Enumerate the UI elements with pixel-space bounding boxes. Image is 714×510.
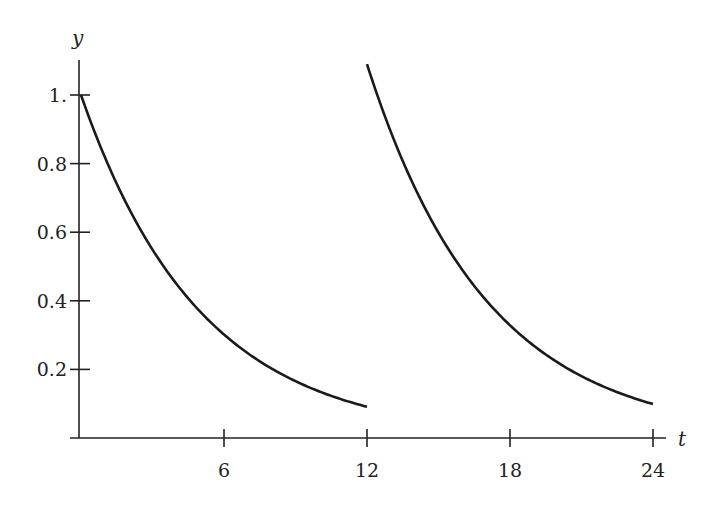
x-tick-label: 24 (641, 459, 665, 481)
x-axis-label: t (678, 427, 687, 451)
y-tick-label: 0.2 (37, 358, 67, 380)
curves (81, 64, 653, 407)
y-tick-label: 0.4 (37, 290, 67, 312)
ticks: 61218240.20.40.60.81. (37, 84, 665, 481)
x-tick-label: 6 (218, 459, 230, 481)
y-tick-label: 0.6 (37, 221, 67, 243)
curve-segment-2 (367, 64, 653, 404)
chart: 61218240.20.40.60.81. t y (0, 0, 714, 510)
y-tick-label: 1. (49, 84, 67, 106)
y-tick-label: 0.8 (37, 153, 67, 175)
x-tick-label: 12 (355, 459, 379, 481)
curve-segment-1 (81, 95, 367, 407)
x-tick-label: 18 (498, 459, 522, 481)
axes (70, 60, 666, 438)
y-axis-label: y (71, 26, 84, 50)
